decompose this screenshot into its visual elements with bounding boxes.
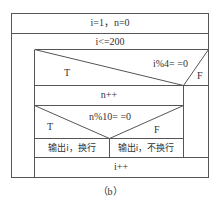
if2-false-label: F <box>154 124 160 136</box>
diagram-lines <box>0 0 217 204</box>
n-increment: n++ <box>101 89 117 101</box>
if2-true-stmt: 输出i，换行 <box>48 142 96 154</box>
if2-false-stmt: 输出i，不换行 <box>118 142 175 154</box>
if2-true-label: T <box>47 121 53 133</box>
i-increment: i++ <box>114 161 128 173</box>
init-statement: i=1，n=0 <box>90 17 129 29</box>
figure-caption: （b） <box>98 186 123 198</box>
if2-condition: n%10= =0 <box>89 111 131 123</box>
if1-true-label: T <box>64 67 70 79</box>
if1-condition: i%4= =0 <box>153 58 188 70</box>
loop-condition: i<=200 <box>95 36 124 48</box>
if1-false-label: F <box>197 70 203 82</box>
